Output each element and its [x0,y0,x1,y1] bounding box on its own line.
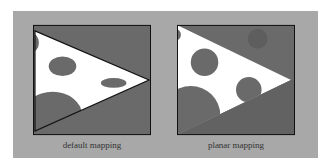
spot [49,56,77,76]
planar-mapping-figure [177,24,295,136]
spot [191,49,219,77]
spot [101,78,127,88]
planar-mapping-caption: planar mapping [166,140,306,150]
faint-spot [248,29,268,49]
default-mapping-svg [33,24,151,136]
planar-mapping-svg [177,24,295,136]
default-mapping-figure [33,24,151,136]
default-mapping-caption: default mapping [22,140,162,150]
